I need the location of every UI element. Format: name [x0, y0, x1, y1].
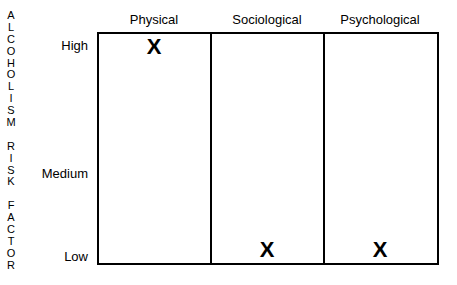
y-axis-title-letter: I — [9, 153, 12, 165]
y-axis-title-letter: R — [7, 141, 15, 153]
y-level-label-low: Low — [8, 249, 88, 264]
y-level-label-high: High — [8, 38, 88, 53]
column-divider — [323, 34, 325, 263]
x-mark-sociological: X — [260, 239, 275, 261]
column-divider — [210, 34, 212, 263]
y-axis-title-letter — [9, 129, 12, 141]
risk-grid — [97, 32, 439, 265]
column-header-physical: Physical — [98, 12, 210, 27]
y-level-label-medium: Medium — [8, 166, 88, 181]
x-mark-psychological: X — [373, 239, 388, 261]
column-header-psychological: Psychological — [324, 12, 436, 27]
x-mark-physical: X — [147, 36, 162, 58]
y-axis-title-letter: L — [8, 22, 14, 34]
column-header-sociological: Sociological — [211, 12, 323, 27]
